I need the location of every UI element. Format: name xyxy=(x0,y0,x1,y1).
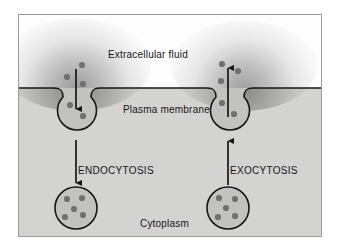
diagram-frame: Extracellular fluid Plasma membrane ENDO… xyxy=(18,14,322,237)
cytoplasm-label: Cytoplasm xyxy=(140,218,189,229)
exocytosis-label: EXOCYTOSIS xyxy=(230,165,298,176)
extracellular-fluid-label: Extracellular fluid xyxy=(108,49,188,60)
endocytosis-label: ENDOCYTOSIS xyxy=(78,165,154,176)
endocytosis-extracellular-particles xyxy=(64,62,86,87)
exocytosis-extracellular-particles xyxy=(218,61,241,84)
cytoplasm-vesicle-right xyxy=(207,187,249,229)
cytoplasm-vesicle-left xyxy=(55,187,97,229)
figure-root: Extracellular fluid Plasma membrane ENDO… xyxy=(0,0,341,251)
plasma-membrane-label: Plasma membrane xyxy=(123,104,210,115)
